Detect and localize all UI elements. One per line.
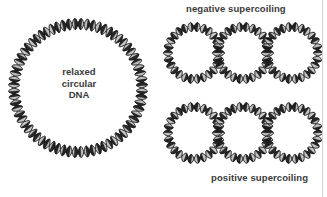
negative-supercoiling-label: negative supercoiling	[186, 3, 286, 14]
positive-supercoiling-label: positive supercoiling	[211, 172, 308, 183]
dna-supercoiling-figure: relaxed circular DNA negative supercoili…	[0, 0, 327, 197]
negative-supercoil-rings	[164, 23, 323, 83]
relaxed-circular-dna-caption: relaxed circular DNA	[44, 66, 114, 101]
caption-line-1: relaxed	[44, 66, 114, 78]
caption-line-2: circular	[44, 78, 114, 90]
panel-right-border	[322, 0, 323, 197]
positive-supercoil-rings	[164, 103, 323, 163]
caption-line-3: DNA	[44, 89, 114, 101]
